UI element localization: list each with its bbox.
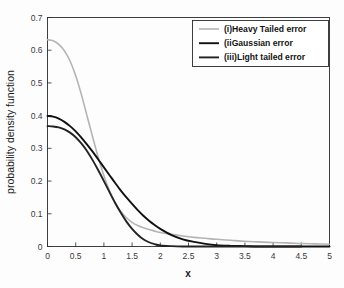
- y-tick-label: 0.4: [31, 111, 43, 121]
- x-tick-label: 0: [45, 251, 50, 261]
- y-axis-title: probability density function: [4, 70, 16, 194]
- x-tick-label: 1.5: [126, 251, 138, 261]
- y-tick-label: 0.5: [31, 78, 43, 88]
- x-axis-title: x: [185, 268, 191, 279]
- y-tick-label: 0: [38, 242, 43, 252]
- x-tick-label: 4: [271, 251, 276, 261]
- y-tick-label: 0.3: [31, 143, 43, 153]
- x-tick-label: 1: [102, 251, 107, 261]
- x-tick-label: 2: [158, 251, 163, 261]
- y-tick-label: 0.1: [31, 209, 43, 219]
- x-tick-label: 3: [214, 251, 219, 261]
- x-tick-label: 0.5: [70, 251, 82, 261]
- y-tick-label: 0.2: [31, 176, 43, 186]
- legend-label-heavy: (i)Heavy Tailed error: [224, 24, 307, 34]
- pdf-comparison-chart: 00.511.522.533.544.55 00.10.20.30.40.50.…: [0, 0, 344, 288]
- x-tick-label: 2.5: [183, 251, 195, 261]
- x-tick-label: 3.5: [239, 251, 251, 261]
- legend-label-light: (iii)Light tailed error: [224, 52, 306, 62]
- figure-container: 00.511.522.533.544.55 00.10.20.30.40.50.…: [0, 0, 344, 288]
- chart-legend: (i)Heavy Tailed error(iiGaussian error(i…: [193, 21, 329, 67]
- x-tick-label: 5: [327, 251, 332, 261]
- legend-label-gaussian: (iiGaussian error: [224, 38, 293, 48]
- y-tick-label: 0.7: [31, 13, 43, 23]
- x-tick-label: 4.5: [295, 251, 307, 261]
- y-tick-label: 0.6: [31, 45, 43, 55]
